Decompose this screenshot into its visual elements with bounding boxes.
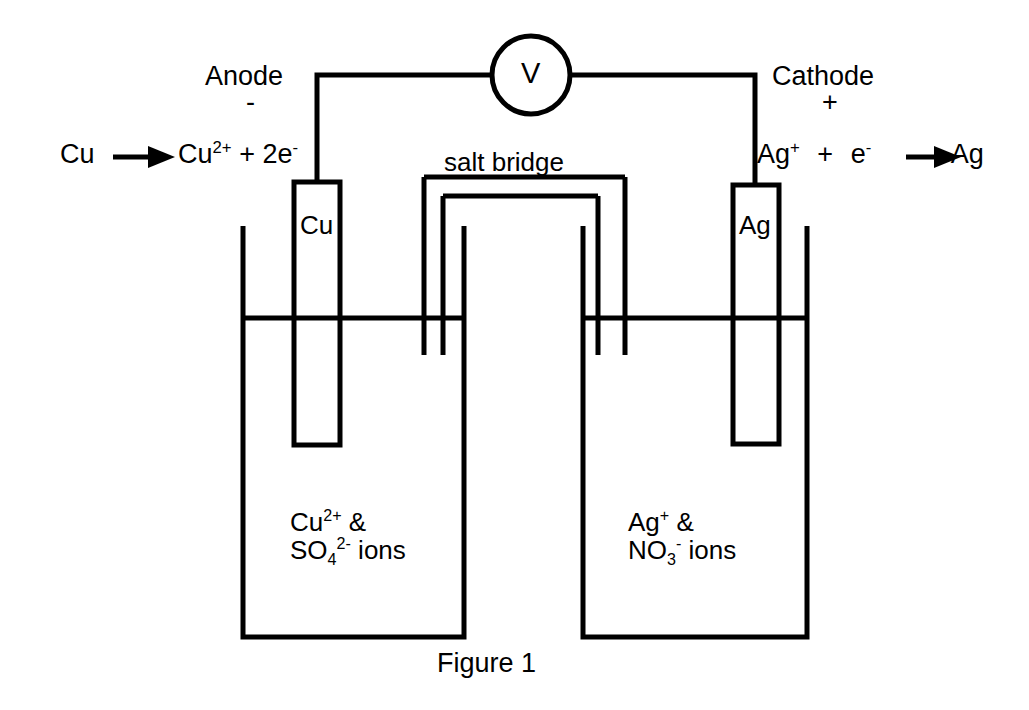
left-solution-label: Cu2+ & SO42- ions [290,508,406,564]
right-solution-cation-charge: + [660,506,669,524]
left-solution-anion: SO [290,535,328,565]
cell-diagram-graphics [0,0,1029,710]
silver-electrode-label: Ag [739,211,771,239]
wire-voltmeter-to-cathode [570,75,755,185]
right-solution-cation: Ag [628,507,660,537]
left-solution-anion-charge: 2- [337,534,351,552]
cathode-reactant-charge: + [790,138,800,157]
left-beaker-outline [243,226,464,637]
left-solution-ions-word: ions [358,535,406,565]
salt-bridge-outer-tube [424,177,625,355]
right-solution-anion: NO [628,535,667,565]
cathode-electron-charge: - [866,138,872,157]
left-solution-cation-charge: 2+ [323,506,341,524]
left-solution-line1: Cu2+ & [290,508,406,536]
right-solution-anion-charge: - [676,534,681,552]
salt-bridge-label: salt bridge [444,148,564,176]
anode-reactant: Cu [60,139,95,169]
cathode-reactant-symbol: Ag [757,139,790,169]
left-solution-cation: Cu [290,507,323,537]
right-beaker-outline [583,226,807,637]
left-solution-ampersand: & [349,507,366,537]
anode-label: Anode [205,62,283,91]
anode-electron-charge: - [293,138,299,157]
copper-electrode-label: Cu [300,211,333,239]
right-solution-ions-word: ions [689,535,737,565]
cathode-charge-sign: + [822,88,838,117]
voltmeter-label: V [521,58,540,89]
anode-product-symbol: Cu [178,139,213,169]
right-solution-line1: Ag+ & [628,508,736,536]
right-solution-label: Ag+ & NO3- ions [628,508,736,564]
anode-half-reaction: Cu Cu2+ + 2e- [60,140,298,169]
diagram-canvas: Anode - Cathode + Cu Cu2+ + 2e- Ag+ + e-… [0,0,1029,710]
figure-caption: Figure 1 [437,649,536,678]
cathode-half-reaction: Ag+ + e- Ag [757,140,984,169]
cathode-product: Ag [951,139,984,169]
anode-plus: + [239,139,255,169]
right-solution-anion-subscript: 3 [667,550,676,568]
anode-electron-count: 2 [262,139,277,169]
cathode-plus: + [817,139,833,169]
right-solution-ampersand: & [676,507,693,537]
right-solution-line2: NO3- ions [628,536,736,564]
left-solution-anion-subscript: 4 [328,550,337,568]
cathode-electron-symbol: e [851,139,866,169]
anode-product-charge: 2+ [213,138,232,157]
left-solution-line2: SO42- ions [290,536,406,564]
anode-charge-sign: - [246,88,255,117]
anode-electron-symbol: e [277,139,292,169]
